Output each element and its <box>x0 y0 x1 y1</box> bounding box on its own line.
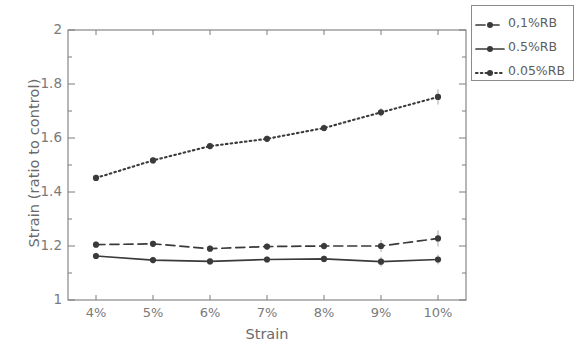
y-tick-label: 1 <box>24 291 62 307</box>
legend-swatch-dotted <box>475 64 505 76</box>
x-tick-label: 5% <box>130 305 176 320</box>
x-axis-title: Strain <box>68 326 466 342</box>
chart-legend: 0,1%RB 0.5%RB 0.05%RB <box>471 5 574 81</box>
legend-swatch-dashed <box>475 16 505 28</box>
legend-item[interactable]: 0,1%RB <box>475 10 573 34</box>
x-tick-label: 9% <box>358 305 404 320</box>
legend-item[interactable]: 0.05%RB <box>475 58 573 82</box>
legend-swatch-solid <box>475 40 505 52</box>
x-tick-label: 8% <box>301 305 347 320</box>
legend-item[interactable]: 0.5%RB <box>475 34 573 58</box>
legend-label: 0.05%RB <box>508 63 565 78</box>
x-tick-label: 4% <box>73 305 119 320</box>
legend-label: 0.5%RB <box>508 39 557 54</box>
x-tick-label: 10% <box>415 305 461 320</box>
chart-figure: 21.81.61.41.21 4%5%6%7%8%9%10% Strain (r… <box>0 0 576 350</box>
x-tick-label: 6% <box>187 305 233 320</box>
x-tick-label: 7% <box>244 305 290 320</box>
y-axis-title: Strain (ratio to control) <box>26 33 42 293</box>
legend-label: 0,1%RB <box>508 15 557 30</box>
